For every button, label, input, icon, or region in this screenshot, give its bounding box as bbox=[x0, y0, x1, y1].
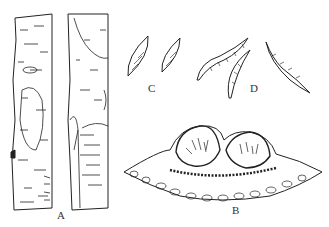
bark-strip-right bbox=[68, 14, 108, 210]
panel-label-a: A bbox=[57, 210, 65, 221]
bark-strip-left bbox=[11, 14, 52, 210]
panel-label-b: B bbox=[232, 205, 239, 216]
panel-label-d: D bbox=[250, 83, 258, 94]
spores-c bbox=[128, 36, 180, 76]
panel-label-c: C bbox=[148, 83, 155, 94]
fruiting-bodies-b bbox=[124, 126, 322, 201]
illustration bbox=[0, 0, 329, 227]
